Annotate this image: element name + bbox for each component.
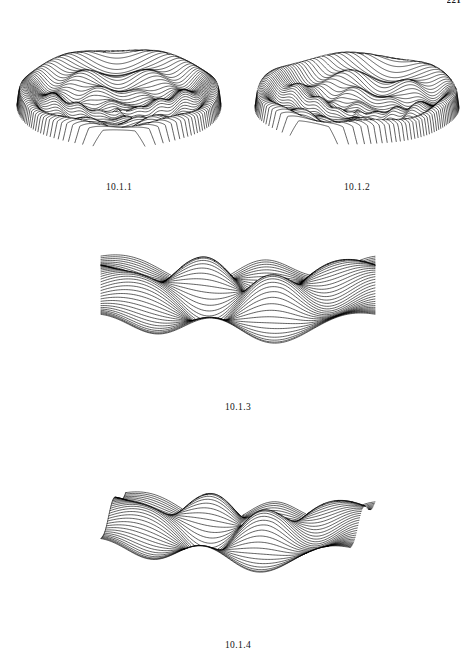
figure-10-1-4 [98, 432, 378, 632]
page-number: 221 [447, 0, 461, 4]
figure-caption-10-1-4: 10.1.4 [98, 640, 378, 650]
surface-plot-10-1-2 [252, 18, 462, 178]
figure-caption-10-1-3: 10.1.3 [98, 402, 378, 412]
figure-10-1-1 [14, 18, 224, 178]
figure-caption-10-1-1: 10.1.1 [14, 182, 224, 192]
document-page: 221 10.1.1 10.1.2 10.1.3 10.1.4 [0, 0, 473, 664]
surface-plot-10-1-1 [14, 18, 224, 178]
figure-10-1-3 [98, 200, 378, 398]
surface-plot-10-1-4 [98, 432, 378, 632]
figure-10-1-2 [252, 18, 462, 178]
figure-caption-10-1-2: 10.1.2 [252, 182, 462, 192]
surface-plot-10-1-3 [98, 200, 378, 398]
